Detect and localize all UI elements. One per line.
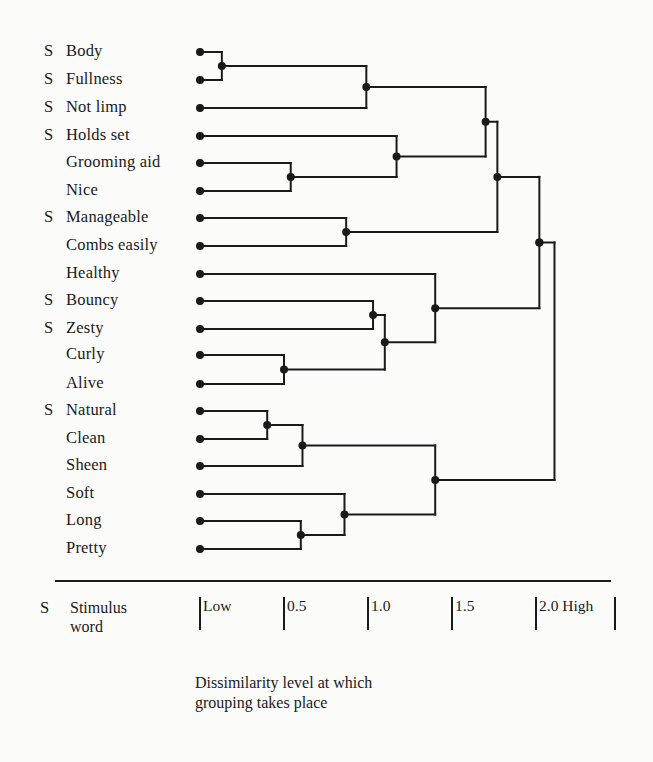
root-node <box>535 239 543 247</box>
axis-tick <box>199 597 201 630</box>
legend-marker: S <box>40 598 49 618</box>
axis-end-tick <box>614 597 616 630</box>
axis-tick-label: 0.5 <box>287 598 306 614</box>
axis-tick-label: Low <box>203 598 231 614</box>
axis-tick <box>283 597 285 630</box>
legend-text: Stimulus word <box>70 598 160 636</box>
axis-tick-label: 1.0 <box>371 598 390 614</box>
axis-tick <box>451 597 453 630</box>
axis-caption: Dissimilarity level at which grouping ta… <box>195 673 375 713</box>
axis-tick-label: 2.0 High <box>539 598 593 614</box>
axis-tick-label: 1.5 <box>455 598 474 614</box>
dendrogram-tree <box>0 0 653 600</box>
axis-tick <box>367 597 369 630</box>
axis-tick <box>535 597 537 630</box>
axis-separator-line <box>55 580 611 582</box>
